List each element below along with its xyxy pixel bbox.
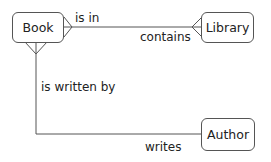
relationship-label-contains: contains [140, 30, 191, 44]
relationship-label-writes: writes [145, 140, 181, 154]
entity-author-label: Author [207, 127, 249, 142]
relationship-label-is-in: is in [75, 11, 99, 25]
entity-book[interactable]: Book [12, 12, 64, 43]
entity-library-label: Library [206, 20, 250, 35]
entity-author[interactable]: Author [201, 118, 255, 151]
edge-book-author [36, 54, 201, 134]
relationship-label-is-written-by: is written by [41, 80, 115, 94]
entity-library[interactable]: Library [201, 12, 254, 43]
entity-book-label: Book [22, 20, 53, 35]
